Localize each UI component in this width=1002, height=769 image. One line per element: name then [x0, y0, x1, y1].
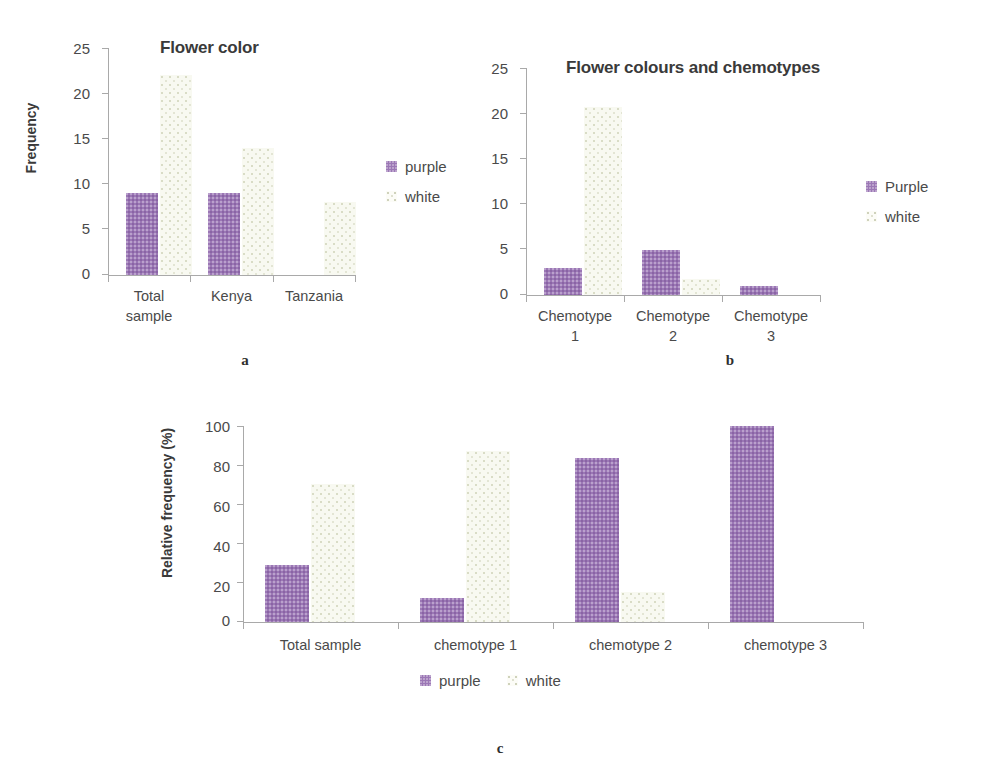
panel-a-xtickmark-2	[273, 275, 274, 282]
panel-a-plot-area	[108, 48, 356, 275]
panel-c-bar-purple-chemotype-2	[575, 458, 619, 622]
panel-a-xtickmark-0	[108, 275, 109, 282]
panel-a-bar-purple-kenya	[208, 193, 240, 275]
panel-c-xtick-label-total-sample: Total sample	[243, 636, 398, 656]
panel-b-bar-white-chemotype-2	[682, 279, 720, 295]
panel-b-xtickmark-0	[526, 295, 527, 302]
panel-letter-b: b	[700, 352, 760, 369]
panel-b-legend: Purple white	[866, 178, 928, 225]
panel-b-xtick-line-2-c1: 1	[518, 327, 632, 347]
panel-a-xtickmark-1	[190, 275, 191, 282]
panel-b-bar-purple-chemotype-1	[544, 268, 582, 295]
panel-b-xtick-label-chemotype-3: Chemotype 3	[714, 307, 828, 346]
panel-c-xtick-label-chemotype-3: chemotype 3	[708, 636, 863, 656]
panel-b-ytick-5: 5	[470, 240, 508, 257]
panel-a-x-axis	[108, 275, 356, 276]
panel-c-legend: purple white	[420, 672, 561, 689]
panel-b-legend-label-purple: Purple	[885, 178, 928, 195]
panel-b-ytick-25: 25	[470, 60, 508, 77]
panel-b-xtick-line-1-c1: Chemotype	[518, 307, 632, 327]
panel-letter-c: c	[470, 740, 530, 757]
panel-b-ytick-10: 10	[470, 195, 508, 212]
panel-a-ytick-0: 0	[52, 265, 90, 282]
panel-c-xtickmark-1	[398, 622, 399, 629]
panel-b-ytick-0: 0	[470, 285, 508, 302]
panel-b-x-axis	[526, 295, 820, 296]
panel-a-bar-white-kenya	[242, 148, 274, 275]
panel-b-ytick-20: 20	[470, 105, 508, 122]
panel-a-chart: Flower color Frequency 25 20 15 10 5 0 T…	[0, 0, 470, 360]
panel-a-xtick-label-kenya: Kenya	[190, 287, 273, 307]
panel-c-xtick-label-chemotype-2: chemotype 2	[553, 636, 708, 656]
panel-c-xtickmark-3	[708, 622, 709, 629]
white-swatch-icon	[507, 675, 518, 686]
panel-c-plot-area	[243, 426, 863, 622]
panel-b-xtick-line-1-c3: Chemotype	[714, 307, 828, 327]
panel-b-legend-label-white: white	[885, 208, 920, 225]
purple-swatch-icon	[386, 161, 397, 172]
panel-a-legend-item-purple[interactable]: purple	[386, 158, 447, 175]
panel-b-xtick-label-chemotype-1: Chemotype 1	[518, 307, 632, 346]
panel-a-xtick-line-1: Total	[108, 287, 190, 307]
purple-swatch-icon	[420, 675, 431, 686]
panel-b-xtickmark-1	[624, 295, 625, 302]
panel-c-y-axis-label: Relative frequency (%)	[159, 403, 175, 603]
panel-a-xtick-label-total-sample: Total sample	[108, 287, 190, 326]
panel-c-ytick-0: 0	[184, 612, 230, 629]
panel-b-xtickmark-2	[722, 295, 723, 302]
panel-c-bar-purple-chemotype-3	[730, 426, 774, 622]
panel-a-bar-white-total-sample	[160, 75, 192, 275]
panel-a-xtick-label-tanzania: Tanzania	[273, 287, 355, 307]
panel-c-xtickmark-2	[553, 622, 554, 629]
panel-c-ytick-100: 100	[184, 418, 230, 435]
panel-c-xtickmark-0	[243, 622, 244, 629]
panel-b-xtick-line-1-c2: Chemotype	[616, 307, 730, 327]
panel-b-xtick-label-chemotype-2: Chemotype 2	[616, 307, 730, 346]
panel-a-y-axis-label: Frequency	[23, 83, 39, 193]
panel-b-ytick-15: 15	[470, 150, 508, 167]
panel-b-xtick-line-2-c2: 2	[616, 327, 730, 347]
panel-c-bar-purple-total-sample	[265, 565, 309, 622]
panel-a-legend-label-purple: purple	[405, 158, 447, 175]
panel-a-legend: purple white	[386, 158, 447, 205]
panel-c-legend-item-white[interactable]: white	[507, 672, 561, 689]
panel-a-ytick-10: 10	[52, 175, 90, 192]
panel-c-legend-item-purple[interactable]: purple	[420, 672, 481, 689]
panel-b-legend-item-purple[interactable]: Purple	[866, 178, 928, 195]
panel-c-bar-purple-chemotype-1	[420, 598, 464, 623]
panel-a-legend-item-white[interactable]: white	[386, 188, 447, 205]
panel-c-xtickmark-4	[863, 622, 864, 629]
white-swatch-icon	[866, 211, 877, 222]
panel-c-chart: Relative frequency (%) 100 80 60 40 20 0…	[130, 400, 870, 730]
panel-b-xtick-line-2-c3: 3	[714, 327, 828, 347]
panel-letter-a: a	[215, 352, 275, 369]
panel-a-xtickmark-3	[355, 275, 356, 282]
panel-c-ytick-20: 20	[184, 578, 230, 595]
panel-c-bar-white-chemotype-1	[466, 451, 510, 623]
panel-a-bar-white-tanzania	[324, 202, 356, 275]
panel-b-xtickmark-3	[820, 295, 821, 302]
panel-b-bar-white-chemotype-1	[584, 107, 622, 295]
panel-a-ytick-25: 25	[52, 40, 90, 57]
panel-a-legend-label-white: white	[405, 188, 440, 205]
panel-a-ytick-15: 15	[52, 130, 90, 147]
panel-a-bar-purple-total-sample	[126, 193, 158, 275]
panel-b-chart: Flower colours and chemotypes 25 20 15 1…	[470, 20, 1002, 380]
panel-a-xtick-line-2: sample	[108, 307, 190, 327]
panel-c-bar-white-total-sample	[311, 484, 355, 622]
panel-a-ytick-5: 5	[52, 220, 90, 237]
panel-c-bar-white-chemotype-2	[621, 592, 665, 622]
panel-c-ytick-40: 40	[184, 538, 230, 555]
white-swatch-icon	[386, 191, 397, 202]
panel-c-ytick-60: 60	[184, 498, 230, 515]
panel-b-legend-item-white[interactable]: white	[866, 208, 928, 225]
panel-c-xtick-line-total-sample: Total sample	[243, 636, 398, 656]
panel-c-ytick-80: 80	[184, 458, 230, 475]
panel-a-xtick-line-1-kenya: Kenya	[190, 287, 273, 307]
purple-swatch-icon	[866, 181, 877, 192]
panel-c-xtick-line-chemotype-1: chemotype 1	[398, 636, 553, 656]
panel-b-bar-purple-chemotype-3	[740, 286, 778, 295]
panel-a-xtick-line-1-tanzania: Tanzania	[273, 287, 355, 307]
panel-c-xtick-line-chemotype-3: chemotype 3	[708, 636, 863, 656]
panel-c-legend-label-white: white	[526, 672, 561, 689]
